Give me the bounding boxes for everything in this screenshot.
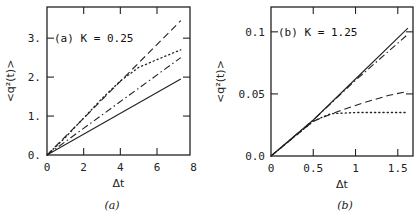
panel-caption: (b) <box>337 199 353 212</box>
plot-frame <box>47 7 190 155</box>
y-tick-label: 0.0 <box>245 150 265 163</box>
panel-caption: (a) <box>104 199 119 212</box>
x-tick-label: 2 <box>80 161 87 174</box>
figure: 024680.1.2.3.(a) K = 0.25Δt<q²(t)>(a) 00… <box>0 0 418 215</box>
x-tick-label: 0 <box>268 162 275 175</box>
x-tick-label: 8 <box>190 161 197 174</box>
y-axis-label: <q²(t)> <box>214 60 227 103</box>
series-dotted <box>47 50 181 155</box>
x-tick-label: 0 <box>44 161 51 174</box>
x-tick-label: 6 <box>154 161 161 174</box>
x-axis-label: Δt <box>336 178 349 191</box>
series-solid <box>271 28 408 156</box>
x-tick-label: 1.5 <box>388 162 408 175</box>
panel-annotation: (b) K = 1.25 <box>278 26 357 39</box>
y-tick-label: 3. <box>28 32 41 45</box>
y-tick-label: 1. <box>28 110 41 123</box>
panel-annotation: (a) K = 0.25 <box>54 32 133 45</box>
y-tick-label: 0.05 <box>239 88 266 101</box>
y-axis-label: <q²(t)> <box>4 60 17 103</box>
series-dotted <box>271 113 408 157</box>
series-dash-dot <box>271 34 408 156</box>
y-tick-label: 0. <box>28 149 41 162</box>
x-tick-label: 0.5 <box>303 162 323 175</box>
series-dashed <box>271 91 408 156</box>
panel-b-chart: 00.511.50.00.050.1(b) K = 1.25Δt<q²(t)>(… <box>214 7 413 212</box>
series-dash-dot <box>47 58 181 155</box>
x-axis-label: Δt <box>113 177 126 190</box>
y-tick-label: 0.1 <box>245 26 265 39</box>
x-tick-label: 4 <box>117 161 124 174</box>
x-tick-label: 1 <box>352 162 359 175</box>
y-tick-label: 2. <box>28 71 41 84</box>
panel-a-chart: 024680.1.2.3.(a) K = 0.25Δt<q²(t)>(a) <box>4 7 197 212</box>
series-solid <box>47 79 181 155</box>
